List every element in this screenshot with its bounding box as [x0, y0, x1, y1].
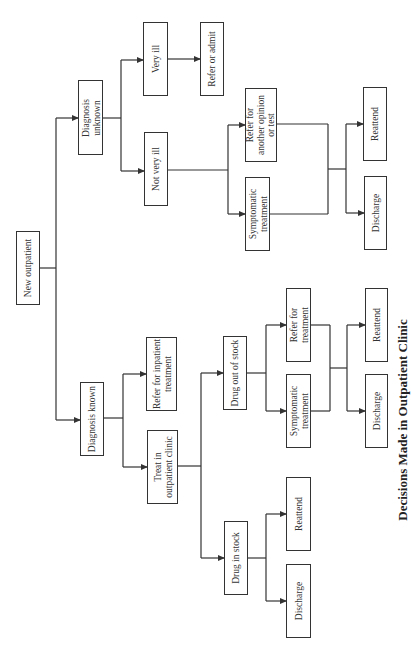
node-label: Reattend — [370, 107, 381, 141]
node-label: Reattend — [371, 308, 382, 342]
node-discharge-unknown: Discharge — [364, 176, 387, 250]
node-label: Diagnosis known — [87, 386, 98, 452]
node-diagnosis-unknown: Diagnosis unknown — [78, 80, 103, 155]
diagram-title-container: Decisions Made in Outpatient Clinic — [395, 245, 410, 595]
node-label: Refer for treatment — [288, 307, 309, 343]
node-label: New outpatient — [23, 239, 34, 297]
node-refer-inpatient: Refer for inpatient treatment — [146, 337, 177, 411]
node-symptomatic-unknown: Symptomatic treatment — [245, 177, 270, 251]
node-label: Refer for inpatient treatment — [151, 339, 172, 409]
node-very-ill: Very ill — [143, 22, 168, 96]
node-label: Refer for another opinion or test — [245, 95, 277, 155]
node-label: Refer or admit — [207, 31, 218, 86]
node-refer-opinion: Refer for another opinion or test — [245, 88, 277, 162]
node-discharge-oos: Discharge — [365, 374, 388, 448]
node-refer-treatment: Refer for treatment — [286, 288, 311, 362]
node-label: Very ill — [150, 45, 161, 73]
node-label: Symptomatic treatment — [247, 189, 268, 240]
node-not-very-ill: Not very ill — [144, 132, 168, 206]
node-treat-outpatient: Treat in outpatient clinic — [147, 430, 178, 504]
node-drug-out-of-stock: Drug out of stock — [223, 336, 247, 410]
node-diagnosis-known: Diagnosis known — [80, 382, 104, 456]
node-symptomatic-oos: Symptomatic treatment — [286, 374, 311, 448]
node-label: Drug out of stock — [230, 340, 241, 407]
node-reattend-oos: Reattend — [365, 288, 388, 362]
node-label: Treat in outpatient clinic — [152, 436, 173, 497]
node-discharge-instock: Discharge — [286, 564, 311, 638]
diagram-title: Decisions Made in Outpatient Clinic — [395, 319, 411, 521]
node-label: Discharge — [371, 392, 382, 430]
node-label: Not very ill — [151, 147, 162, 191]
node-reattend-unknown: Reattend — [363, 87, 387, 161]
node-label: Diagnosis unknown — [80, 99, 101, 137]
node-reattend-instock: Reattend — [286, 477, 311, 551]
node-label: Reattend — [293, 497, 304, 531]
node-label: Drug in stock — [231, 532, 242, 584]
node-label: Discharge — [293, 582, 304, 620]
node-label: Symptomatic treatment — [288, 386, 309, 437]
node-drug-in-stock: Drug in stock — [224, 521, 248, 595]
node-new-outpatient: New outpatient — [16, 231, 40, 305]
node-label: Discharge — [370, 194, 381, 232]
node-refer-or-admit: Refer or admit — [200, 22, 224, 96]
